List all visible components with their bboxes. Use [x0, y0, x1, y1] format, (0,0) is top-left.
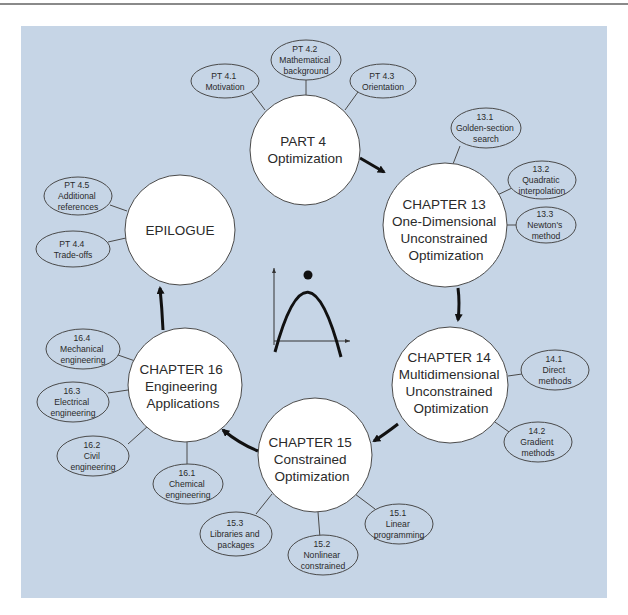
parabola-maximum-graph-icon: [272, 268, 350, 357]
label-ch15: CHAPTER 15 Constrained Optimization: [268, 435, 355, 484]
node-part4: [250, 95, 360, 205]
label-ch16: CHAPTER 16 Engineering Applications: [139, 362, 226, 411]
arrow-ch15-to-ch16: [223, 430, 258, 451]
label-pt44: PT 4.4 Trade-offs: [54, 239, 93, 260]
arrow-ch16-to-epilogue: [160, 288, 163, 330]
arrow-part4-to-ch13: [360, 158, 384, 172]
arrow-ch13-to-ch14: [458, 288, 459, 320]
node-pt41: [191, 64, 259, 98]
node-pt43: [350, 64, 416, 98]
node-pt44: [36, 231, 110, 267]
label-epilogue: EPILOGUE: [145, 223, 214, 238]
optimization-diagram: PART 4 Optimization CHAPTER 13 One-Dimen…: [0, 0, 628, 615]
arrow-ch14-to-ch15: [374, 424, 398, 441]
